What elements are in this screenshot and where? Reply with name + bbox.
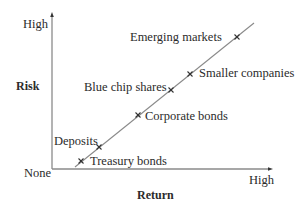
x-axis-high-label: High xyxy=(249,174,274,187)
y-axis-arrow-icon xyxy=(50,12,54,17)
risk-return-line xyxy=(75,23,254,167)
point-label-blue-chip-shares: Blue chip shares xyxy=(84,81,167,94)
y-axis-title: Risk xyxy=(16,80,39,92)
x-axis-title: Return xyxy=(137,189,174,201)
point-label-treasury-bonds: Treasury bonds xyxy=(90,155,167,168)
marker-emerging-markets-icon xyxy=(235,35,240,40)
marker-smaller-companies-icon xyxy=(188,72,193,77)
point-label-deposits: Deposits xyxy=(54,135,98,148)
origin-label: None xyxy=(24,167,51,180)
point-label-smaller-companies: Smaller companies xyxy=(199,67,294,80)
x-axis-arrow-icon xyxy=(268,167,273,171)
marker-blue-chip-shares-icon xyxy=(169,88,174,93)
y-axis-high-label: High xyxy=(23,18,48,31)
point-label-emerging-markets: Emerging markets xyxy=(130,31,222,44)
point-label-corporate-bonds: Corporate bonds xyxy=(145,110,228,123)
